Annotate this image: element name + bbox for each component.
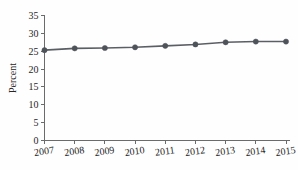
line-chart: 05101520253035 2007200820092010201120122…: [0, 0, 298, 170]
x-tick-label: 2009: [94, 144, 115, 158]
data-point-marker: [72, 46, 77, 51]
data-point-marker: [193, 42, 198, 47]
data-point-marker: [42, 48, 47, 53]
x-axis-tick-marks: [45, 141, 287, 145]
data-point-marker: [223, 40, 228, 45]
y-tick-label: 35: [29, 10, 39, 21]
y-tick-label: 20: [29, 64, 39, 75]
chart-canvas: 05101520253035 2007200820092010201120122…: [0, 0, 298, 170]
data-point-marker: [102, 45, 107, 50]
x-tick-label: 2011: [154, 144, 175, 158]
y-tick-label: 5: [34, 117, 39, 128]
x-tick-label: 2010: [124, 144, 145, 158]
data-point-marker: [253, 39, 258, 44]
y-axis-tick-labels: 05101520253035: [29, 10, 39, 146]
y-tick-label: 10: [29, 99, 39, 110]
y-tick-label: 25: [29, 46, 39, 57]
x-tick-label: 2014: [245, 144, 266, 158]
y-tick-label: 15: [29, 81, 39, 92]
y-tick-label: 30: [29, 28, 39, 39]
y-axis-tick-marks: [41, 16, 45, 141]
y-tick-label: 0: [34, 135, 39, 146]
x-tick-label: 2008: [64, 144, 85, 158]
x-tick-label: 2007: [33, 144, 54, 158]
data-point-marker: [132, 45, 137, 50]
x-tick-label: 2013: [214, 144, 235, 158]
x-axis-tick-labels: 200720082009201020112012201320142015: [33, 144, 296, 158]
x-tick-label: 2015: [275, 144, 296, 158]
y-axis-title: Percent: [7, 63, 18, 93]
x-tick-label: 2012: [184, 144, 205, 158]
data-point-marker: [283, 39, 288, 44]
data-point-marker: [163, 43, 168, 48]
